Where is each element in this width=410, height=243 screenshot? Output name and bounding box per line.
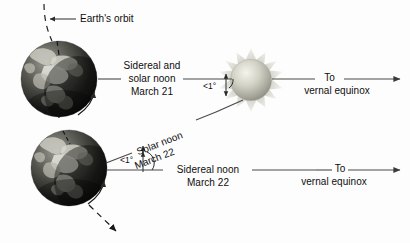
- sidereal-solar-noon-label-line2: solar noon: [120, 73, 184, 85]
- sidereal-solar-noon-label-line1: Sidereal and: [118, 60, 186, 72]
- earth-globe-march-22: [31, 130, 122, 223]
- angle-label-bottom: <1°: [120, 155, 133, 165]
- to-vernal-equinox-top-line1: To: [315, 72, 344, 84]
- earth-globe-march-21: [21, 41, 112, 134]
- angle-label-top: <1°: [203, 81, 216, 91]
- earth-orbit-label: Earth's orbit: [80, 13, 134, 25]
- dashed-orbit-path: [44, 4, 52, 41]
- to-vernal-equinox-bottom-line2: vernal equinox: [296, 176, 372, 188]
- sidereal-noon-label-line1: Sidereal noon: [164, 164, 252, 176]
- to-vernal-equinox-bottom-line1: To: [332, 163, 348, 175]
- diagram-graphics: [0, 0, 410, 243]
- sidereal-noon-label-line2: March 22: [164, 177, 252, 189]
- orbit-direction-arrow: [89, 205, 116, 231]
- astronomy-diagram: Earth's orbit Sidereal and solar noon Ma…: [0, 0, 410, 243]
- sun-with-corona: [220, 48, 283, 112]
- sidereal-solar-noon-label-line3: March 21: [120, 86, 184, 98]
- to-vernal-equinox-top-line2: vernal equinox: [300, 85, 374, 97]
